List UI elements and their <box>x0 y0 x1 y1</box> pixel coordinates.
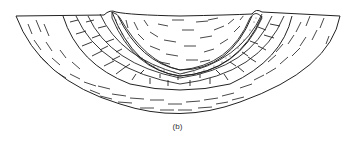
surface-line <box>16 10 340 16</box>
outer-shale-layer <box>18 16 329 116</box>
outer-boundary <box>16 16 340 114</box>
inner-shale-layer <box>126 15 244 64</box>
figure-caption: (b) <box>0 122 355 131</box>
brick-joints <box>70 20 280 86</box>
brick-course-lines <box>76 14 284 84</box>
outer-dash-pattern <box>18 16 329 116</box>
fold-outlines <box>16 10 340 113</box>
sand-inner-boundary <box>118 16 252 70</box>
